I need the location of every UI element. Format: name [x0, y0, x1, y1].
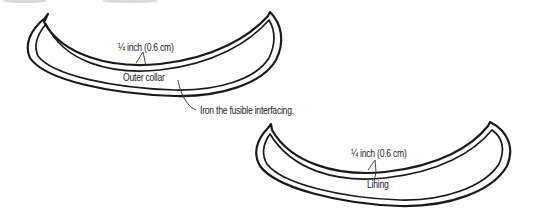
- outer-collar-seam-allowance-label: ¼ inch (0.6 cm): [118, 41, 174, 53]
- collar-pattern-diagram: ¼ inch (0.6 cm) Outer collar Iron the fu…: [0, 0, 537, 224]
- lining-label: Lining: [367, 178, 389, 190]
- outer-collar-label: Outer collar: [123, 71, 165, 83]
- outer-collar-outline: [28, 12, 282, 96]
- cropped-remnant: [102, 0, 158, 3]
- lining-seam-allowance-label: ¼ inch (0.6 cm): [351, 147, 407, 159]
- outer-collar-piece: [28, 12, 282, 110]
- interfacing-instruction-label: Iron the fusible interfacing.: [200, 104, 294, 116]
- cropped-remnant: [3, 0, 47, 3]
- lining-piece: [256, 122, 510, 206]
- lining-outline: [256, 122, 510, 206]
